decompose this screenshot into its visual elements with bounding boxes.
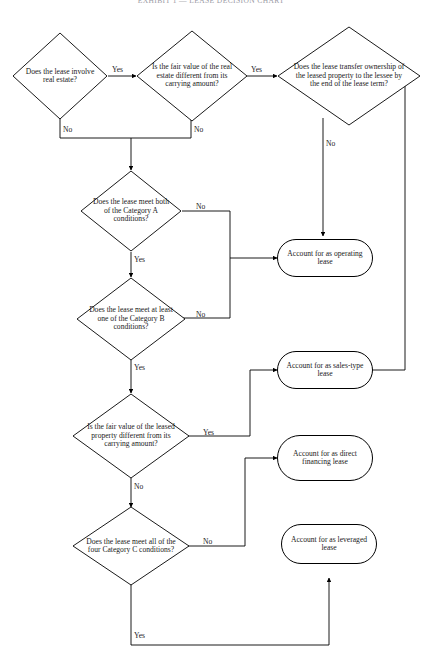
decision-d5[interactable]: Does the lease meet at least one of the … xyxy=(76,277,186,361)
decision-d6[interactable]: Is the fair value of the leased property… xyxy=(72,393,190,479)
decision-d4[interactable]: Does the lease meet both of the Category… xyxy=(80,170,182,252)
edge-label-d5-yes: Yes xyxy=(134,364,145,372)
decision-d4-label: Does the lease meet both of the Category… xyxy=(88,198,174,224)
edge-label-d2-no: No xyxy=(194,126,203,134)
edge-d7-yes xyxy=(131,578,329,645)
decision-d3-label: Does the lease transfer ownership of the… xyxy=(291,63,407,89)
decision-d2[interactable]: Is the fair value of the real estate dif… xyxy=(136,30,248,122)
decision-d5-label: Does the lease meet at least one of the … xyxy=(84,306,178,332)
edge-label-d5-no: No xyxy=(196,311,205,319)
edge-d5-no xyxy=(182,258,230,318)
edge-d7-no xyxy=(188,458,277,546)
edge-d1-no xyxy=(60,113,131,170)
decision-d1-label: Does the lease involve real estate? xyxy=(22,68,98,85)
terminal-direct-financing-lease-label: Account for as direct financing lease xyxy=(280,450,370,467)
terminal-sales-type-lease-label: Account for as sales-type lease xyxy=(280,362,370,379)
edge-label-d7-yes: Yes xyxy=(134,632,145,640)
edge-label-d6-no: No xyxy=(134,483,143,491)
decision-d7[interactable]: Does the lease meet all of the four Cate… xyxy=(72,506,190,586)
edge-d4-no xyxy=(182,211,277,258)
edge-label-d6-yes: Yes xyxy=(203,429,214,437)
edge-label-d1-no: No xyxy=(63,126,72,134)
decision-d1[interactable]: Does the lease involve real estate? xyxy=(12,32,108,120)
edge-label-d3-no: No xyxy=(326,140,335,148)
terminal-direct-financing-lease[interactable]: Account for as direct financing lease xyxy=(277,435,373,481)
decision-d7-label: Does the lease meet all of the four Cate… xyxy=(82,538,180,555)
edge-d6-yes xyxy=(188,370,277,436)
edge-label-d4-no: No xyxy=(196,203,205,211)
terminal-leveraged-lease-label: Account for as leveraged lease xyxy=(284,536,374,553)
edge-label-d7-no: No xyxy=(203,538,212,546)
edge-label-d4-yes: Yes xyxy=(134,256,145,264)
terminal-sales-type-lease[interactable]: Account for as sales-type lease xyxy=(277,351,373,389)
edge-label-d2-yes: Yes xyxy=(251,66,262,74)
decision-d2-label: Is the fair value of the real estate dif… xyxy=(147,63,237,89)
terminal-operating-lease[interactable]: Account for as operating lease xyxy=(277,239,373,277)
terminal-operating-lease-label: Account for as operating lease xyxy=(280,250,370,267)
terminal-leveraged-lease[interactable]: Account for as leveraged lease xyxy=(281,524,377,564)
flowchart-page: EXHIBIT 1 — LEASE DECISION CHART xyxy=(0,0,422,671)
edge-label-d1-yes: Yes xyxy=(112,66,123,74)
decision-d3[interactable]: Does the lease transfer ownership of the… xyxy=(277,26,421,126)
decision-d6-label: Is the fair value of the leased property… xyxy=(82,423,180,449)
